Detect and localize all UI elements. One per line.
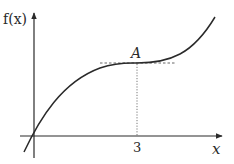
x-axis-label: x bbox=[212, 140, 221, 158]
function-curve bbox=[24, 17, 215, 152]
x-tick-3-label: 3 bbox=[133, 140, 141, 155]
function-graph: f(x) x A 3 bbox=[0, 0, 234, 164]
point-a-label: A bbox=[129, 45, 141, 61]
y-axis-label: f(x) bbox=[3, 11, 27, 27]
